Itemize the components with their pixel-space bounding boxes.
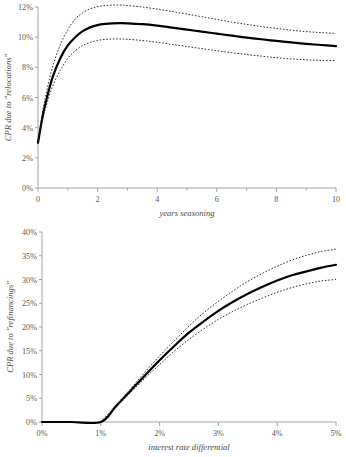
y-tick-label: 5% — [26, 394, 37, 403]
y-tick-label: 20% — [22, 323, 37, 332]
x-tick-label: 3% — [213, 429, 224, 438]
y-tick-label: 15% — [22, 347, 37, 356]
x-tick-label: 6 — [215, 195, 219, 204]
x-tick-label: 1% — [95, 429, 106, 438]
x-tick-label: 4% — [272, 429, 283, 438]
y-axis-title: CPR due to "refinancings" — [5, 281, 15, 373]
chart-relocations: 0%2%4%6%8%10%12%0246810years seasoningCP… — [0, 0, 346, 228]
x-tick-label: 0 — [36, 195, 40, 204]
x-axis-title: interest rate differential — [148, 442, 230, 452]
y-tick-label: 4% — [22, 124, 33, 133]
y-tick-label: 35% — [22, 252, 37, 261]
x-tick-label: 2% — [154, 429, 165, 438]
y-tick-label: 25% — [22, 299, 37, 308]
x-tick-label: 10 — [332, 195, 340, 204]
y-tick-label: 2% — [22, 154, 33, 163]
x-tick-label: 8 — [274, 195, 278, 204]
series-confidence-band — [38, 5, 336, 142]
y-tick-label: 12% — [18, 3, 33, 12]
y-tick-label: 30% — [22, 276, 37, 285]
series-confidence-band — [38, 39, 336, 144]
y-tick-label: 6% — [22, 94, 33, 103]
series-central-line — [42, 265, 336, 423]
y-tick-label: 8% — [22, 63, 33, 72]
x-tick-label: 4 — [155, 195, 159, 204]
series-confidence-band — [101, 249, 336, 422]
series-central-line — [38, 23, 336, 143]
y-tick-label: 0% — [22, 184, 33, 193]
relocations-plot-area: 0%2%4%6%8%10%12%0246810years seasoningCP… — [0, 0, 346, 228]
y-tick-label: 10% — [18, 33, 33, 42]
y-tick-label: 10% — [22, 371, 37, 380]
refinancings-plot-area: 0%5%10%15%20%25%30%35%40%0%1%2%3%4%5%int… — [0, 228, 346, 457]
y-axis-title: CPR due to "relocations" — [3, 53, 13, 141]
y-tick-label: 40% — [22, 228, 37, 237]
x-tick-label: 0% — [37, 429, 48, 438]
x-tick-label: 2 — [96, 195, 100, 204]
x-axis-title: years seasoning — [158, 208, 215, 218]
x-tick-label: 5% — [331, 429, 342, 438]
y-tick-label: 0% — [26, 418, 37, 427]
chart-refinancings: 0%5%10%15%20%25%30%35%40%0%1%2%3%4%5%int… — [0, 228, 346, 457]
